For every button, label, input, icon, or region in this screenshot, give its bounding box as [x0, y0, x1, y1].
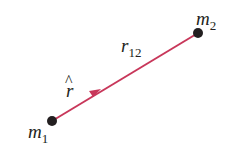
- gravitation-diagram: m2 r12 r ^ m1: [0, 0, 234, 155]
- hat-icon: ^: [65, 72, 73, 89]
- mass1-dot: [47, 116, 57, 126]
- unit-vector-label: r ^: [65, 72, 74, 101]
- mass1-label: m1: [28, 121, 48, 146]
- distance-label: r12: [121, 35, 141, 60]
- mass2-dot: [193, 28, 203, 38]
